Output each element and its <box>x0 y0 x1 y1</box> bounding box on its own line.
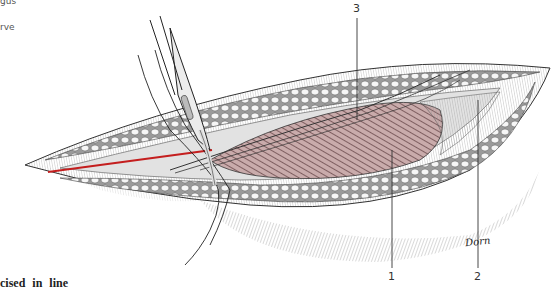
label-2: 2 <box>474 270 481 283</box>
illustration-drawing <box>0 0 558 294</box>
caption-fragment: cised in line <box>0 276 68 291</box>
side-label-fragment: rve <box>0 22 15 32</box>
label-1: 1 <box>388 270 395 283</box>
surgical-illustration: gus rve 3 1 2 Dorn cised in line <box>0 0 558 294</box>
side-label-fragment: gus <box>0 0 16 6</box>
label-3: 3 <box>353 2 360 15</box>
